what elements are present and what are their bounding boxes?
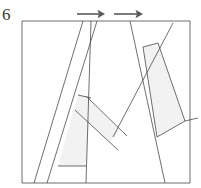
figure-container: 6	[0, 0, 201, 188]
dissection-diagram	[0, 0, 201, 188]
arrow-right	[114, 10, 143, 19]
arrow-left	[77, 10, 105, 19]
shaded-regions-group	[58, 43, 185, 166]
line-right-edge-tail	[185, 118, 198, 121]
direction-arrows-group	[77, 10, 143, 19]
